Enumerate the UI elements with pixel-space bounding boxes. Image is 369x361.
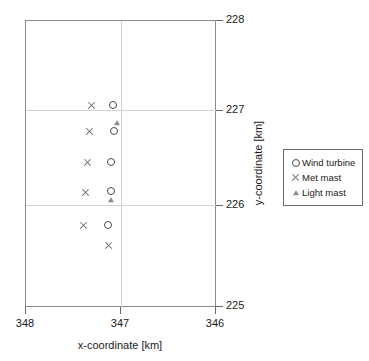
data-point-wind-turbine[interactable] [110, 127, 118, 135]
data-point-wind-turbine[interactable] [104, 221, 112, 229]
y-tick-label-226: 226 [226, 199, 244, 210]
y-tick-label-228: 228 [226, 14, 244, 25]
legend-label-wind-turbine: Wind turbine [302, 158, 355, 168]
cross-marker-icon [289, 171, 302, 184]
x-tick-label-346: 346 [206, 318, 224, 329]
legend-item-met-mast[interactable]: Met mast [289, 170, 358, 185]
y-tick-label-225: 225 [226, 300, 244, 311]
x-axis-title: x-coordinate [km] [78, 340, 162, 351]
data-point-met-mast[interactable] [87, 101, 96, 110]
data-point-met-mast[interactable] [81, 188, 90, 197]
y-tick-mark [216, 20, 223, 21]
circle-marker-icon [289, 156, 302, 169]
triangle-marker-icon [289, 186, 302, 199]
data-point-light-mast[interactable] [114, 120, 120, 125]
scatter-plot-figure: 228 227 226 225 348 347 346 x-coordinate… [0, 0, 369, 361]
legend-label-met-mast: Met mast [302, 173, 341, 183]
data-point-met-mast[interactable] [85, 127, 94, 136]
plot-area [25, 20, 216, 307]
x-tick-mark [120, 307, 121, 314]
legend-item-light-mast[interactable]: Light mast [289, 185, 358, 200]
y-axis-title: y-coordinate [km] [253, 121, 264, 205]
legend-item-wind-turbine[interactable]: Wind turbine [289, 155, 358, 170]
data-point-met-mast[interactable] [104, 241, 113, 250]
data-point-wind-turbine[interactable] [109, 101, 117, 109]
y-tick-mark [216, 205, 223, 206]
x-tick-mark [215, 307, 216, 314]
y-tick-mark [216, 306, 223, 307]
data-point-met-mast[interactable] [83, 158, 92, 167]
data-point-wind-turbine[interactable] [107, 187, 115, 195]
gridline-x-347 [121, 21, 122, 308]
data-point-met-mast[interactable] [79, 221, 88, 230]
y-tick-label-227: 227 [226, 104, 244, 115]
x-tick-label-347: 347 [111, 318, 129, 329]
data-point-wind-turbine[interactable] [107, 158, 115, 166]
y-tick-mark [216, 110, 223, 111]
legend-box: Wind turbine Met mast Light mast [283, 149, 363, 206]
x-tick-mark [25, 307, 26, 314]
legend-label-light-mast: Light mast [302, 188, 346, 198]
data-point-light-mast[interactable] [108, 197, 114, 202]
x-tick-label-348: 348 [16, 318, 34, 329]
